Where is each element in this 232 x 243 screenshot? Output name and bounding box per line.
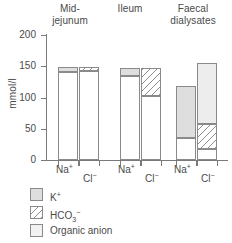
y-tick-label-100: 100 <box>2 92 36 103</box>
legend-item-2: Organic anion <box>30 222 220 240</box>
legend-swatch-org <box>30 224 43 237</box>
y-tick-label-50: 50 <box>2 123 36 134</box>
y-tick-50 <box>41 129 46 130</box>
segment-bicarbonate <box>141 68 161 97</box>
x-label-cl-3: Cl− <box>145 172 159 184</box>
segment-bicarbonate <box>79 67 99 71</box>
x-axis-line <box>46 160 228 161</box>
bar-ileum-na <box>120 68 140 161</box>
segment-organic-anion <box>197 63 217 124</box>
y-tick-label-150: 150 <box>2 60 36 71</box>
segment-base <box>141 96 161 160</box>
segment-potassium <box>176 86 196 138</box>
bar-ileum-cl <box>141 68 161 161</box>
y-tick-100 <box>41 98 46 99</box>
bar-mid-jejunum-na <box>58 67 78 160</box>
x-label-na-0: Na+ <box>56 163 73 175</box>
legend: K+HCO3−Organic anion <box>30 186 220 240</box>
segment-potassium <box>120 68 140 76</box>
x-label-na-4: Na+ <box>174 163 191 175</box>
chart-figure: Mid- jejunum Ileum Faecal dialysates mmo… <box>0 0 232 243</box>
segment-base <box>58 72 78 160</box>
x-tick-7 <box>161 161 162 166</box>
x-label-cl-5: Cl− <box>201 172 215 184</box>
segment-base <box>120 76 140 160</box>
y-tick-150 <box>41 66 46 67</box>
x-tick-3 <box>99 161 100 166</box>
y-tick-200 <box>41 35 46 36</box>
bar-mid-jejunum-cl <box>79 67 99 160</box>
legend-item-1: HCO3− <box>30 204 220 222</box>
x-tick-11 <box>217 161 218 166</box>
segment-bicarbonate <box>197 124 217 148</box>
x-label-cl-1: Cl− <box>83 172 97 184</box>
x-tick-10 <box>197 161 198 166</box>
x-label-na-2: Na+ <box>118 163 135 175</box>
y-tick-label-0: 0 <box>2 154 36 165</box>
bar-faecal-dialysates-cl <box>197 63 217 160</box>
bar-faecal-dialysates-na <box>176 86 196 160</box>
y-tick-0 <box>41 160 46 161</box>
x-tick-6 <box>141 161 142 166</box>
segment-potassium <box>58 67 78 72</box>
segment-base <box>79 71 99 160</box>
legend-label-0: K+ <box>50 188 61 204</box>
x-tick-2 <box>79 161 80 166</box>
legend-item-0: K+ <box>30 186 220 204</box>
segment-base <box>197 149 217 160</box>
y-axis-line <box>46 34 47 161</box>
legend-label-2: Organic anion <box>50 224 112 237</box>
segment-base <box>176 138 196 160</box>
legend-swatch-hco3 <box>30 206 43 219</box>
legend-swatch-k <box>30 188 43 201</box>
y-tick-label-200: 200 <box>2 29 36 40</box>
